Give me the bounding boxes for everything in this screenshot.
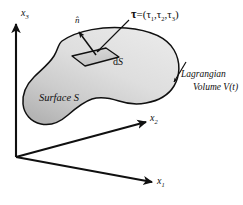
- axis-label-x3-sub: 3: [25, 13, 28, 20]
- area-element-s: S: [118, 56, 123, 67]
- traction-equation-label: τ=(τ1,τ2,τ3): [131, 8, 179, 23]
- axis-label-x1: x1: [157, 176, 165, 189]
- axis-x1-line: [16, 157, 152, 182]
- lagrangian-volume-blob: [23, 28, 179, 125]
- axis-label-x1-sub: 1: [161, 181, 164, 188]
- axis-label-x2: x2: [150, 113, 158, 126]
- diagram-canvas: [0, 0, 243, 205]
- volume-label-line1: Lagrangian: [181, 69, 226, 79]
- axis-label-x2-sub: 2: [154, 118, 157, 125]
- lagrangian-volume-diagram: x3 x2 x1 n̂ τ=(τ1,τ2,τ3) dS Surface S La…: [0, 0, 243, 205]
- surface-label: Surface S: [39, 93, 79, 104]
- traction-close-paren: ): [175, 8, 179, 20]
- normal-vector-label: n̂: [75, 16, 80, 25]
- volume-label: Lagrangian Volume V(t): [181, 68, 238, 94]
- axis-x2-line: [16, 122, 146, 157]
- volume-label-line2: Volume V(t): [181, 81, 238, 94]
- axis-label-x3: x3: [21, 8, 29, 21]
- area-element-label: dS: [113, 57, 123, 67]
- blob-surface-shape: [23, 28, 179, 125]
